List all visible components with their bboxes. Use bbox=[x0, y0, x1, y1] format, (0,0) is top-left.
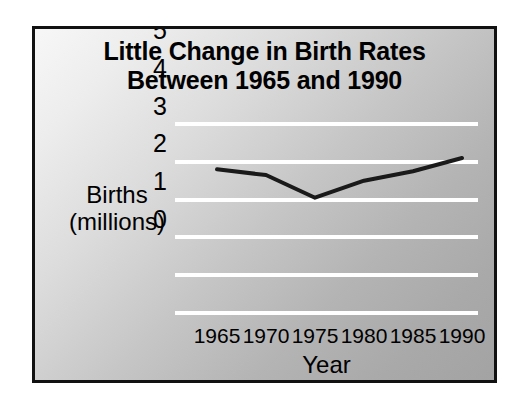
x-tick-label: 1990 bbox=[433, 324, 491, 348]
gridline bbox=[175, 311, 478, 315]
y-tick-label: 3 bbox=[143, 94, 167, 119]
chart-figure: Little Change in Birth Rates Between 196… bbox=[32, 26, 497, 383]
x-axis-tick-labels: 1965 1970 1975 1980 1985 1990 bbox=[175, 324, 487, 352]
plot-area bbox=[175, 122, 478, 311]
x-axis-title: Year bbox=[175, 351, 478, 378]
y-tick-label: 1 bbox=[143, 169, 167, 194]
y-tick-label: 5 bbox=[143, 26, 167, 43]
y-tick-label: 4 bbox=[143, 56, 167, 81]
series-polyline bbox=[217, 158, 462, 198]
y-tick-label: 0 bbox=[143, 207, 167, 232]
y-tick-label: 2 bbox=[143, 131, 167, 156]
data-series-line bbox=[175, 122, 478, 311]
